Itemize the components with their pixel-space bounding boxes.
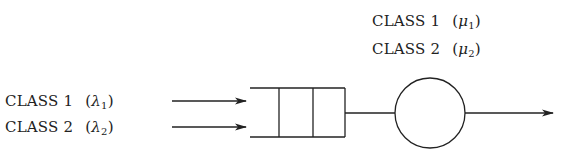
service-label-class-1: CLASS 1(μ1) — [372, 12, 481, 35]
lambda-symbol: λ — [91, 118, 101, 136]
arrival-label-class-1: CLASS 1(λ1) — [5, 92, 114, 115]
queue-buffer — [250, 88, 345, 137]
mu-symbol: μ — [458, 40, 468, 58]
arrival-label-class-2: CLASS 2(λ2) — [5, 118, 114, 141]
lambda-symbol: λ — [91, 92, 101, 110]
server-circle — [395, 78, 465, 148]
service-label-class-2: CLASS 2(μ2) — [372, 40, 481, 63]
mu-symbol: μ — [458, 12, 468, 30]
